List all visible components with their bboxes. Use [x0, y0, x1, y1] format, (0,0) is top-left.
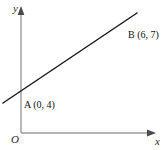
x-axis — [21, 130, 156, 137]
graph-canvas — [0, 0, 164, 150]
y-axis — [18, 6, 25, 133]
x-axis-label: x — [155, 136, 160, 147]
origin-label: O — [11, 134, 19, 145]
plotted-line-ab — [3, 13, 137, 103]
y-axis-arrowhead-icon — [18, 6, 25, 15]
coordinate-graph-figure: y x O A (0, 4) B (6, 7) — [0, 0, 164, 150]
point-label-a: A (0, 4) — [24, 100, 55, 110]
point-label-b: B (6, 7) — [128, 30, 159, 40]
y-axis-label: y — [13, 3, 18, 14]
